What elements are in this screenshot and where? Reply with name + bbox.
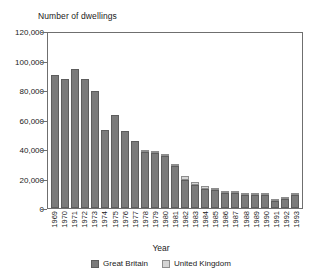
bar-column[interactable]	[91, 33, 100, 208]
x-axis-tick-label: 1975	[110, 210, 119, 244]
x-axis-tick-label: 1980	[160, 210, 169, 244]
bar-column[interactable]	[291, 33, 300, 208]
legend-item-great-britain: Great Britain	[91, 259, 148, 268]
bar-column[interactable]	[161, 33, 170, 208]
bar-column[interactable]	[81, 33, 90, 208]
legend-label-united-kingdom: United Kingdom	[174, 259, 231, 268]
x-axis-tick-label: 1974	[100, 210, 109, 244]
bar-column[interactable]	[241, 33, 250, 208]
x-axis-tick-label: 1992	[281, 210, 290, 244]
bar-column[interactable]	[101, 33, 110, 208]
bar-column[interactable]	[131, 33, 140, 208]
x-axis-tick-label: 1991	[271, 210, 280, 244]
bar-column[interactable]	[111, 33, 120, 208]
x-axis-tick-label: 1983	[191, 210, 200, 244]
bar-column[interactable]	[211, 33, 220, 208]
bar-segment-great-britain[interactable]	[281, 199, 290, 208]
x-axis-tick-label: 1978	[140, 210, 149, 244]
bar-segment-great-britain[interactable]	[191, 185, 200, 208]
bar-segment-great-britain[interactable]	[211, 190, 220, 208]
bar-segment-great-britain[interactable]	[131, 141, 140, 208]
bar-column[interactable]	[251, 33, 260, 208]
bar-column[interactable]	[151, 33, 160, 208]
bar-segment-great-britain[interactable]	[241, 195, 250, 208]
x-axis-tick-label: 1981	[171, 210, 180, 244]
x-axis-tick-label: 1990	[261, 210, 270, 244]
x-axis-tick-label: 1982	[181, 210, 190, 244]
y-axis-title: Number of dwellings	[38, 11, 117, 21]
bar-segment-great-britain[interactable]	[61, 79, 70, 208]
bar-column[interactable]	[191, 33, 200, 208]
bar-segment-great-britain[interactable]	[271, 201, 280, 208]
bar-segment-great-britain[interactable]	[141, 152, 150, 208]
bar-column[interactable]	[71, 33, 80, 208]
bar-column[interactable]	[201, 33, 210, 208]
bar-column[interactable]	[51, 33, 60, 208]
bar-segment-great-britain[interactable]	[111, 115, 120, 208]
x-axis-tick-label: 1989	[251, 210, 260, 244]
bar-segment-great-britain[interactable]	[291, 195, 300, 208]
bar-column[interactable]	[271, 33, 280, 208]
bar-column[interactable]	[181, 33, 190, 208]
bar-segment-great-britain[interactable]	[261, 195, 270, 208]
x-axis-tick-label: 1973	[90, 210, 99, 244]
legend-label-great-britain: Great Britain	[103, 259, 148, 268]
bar-column[interactable]	[221, 33, 230, 208]
x-axis-tick-label: 1988	[241, 210, 250, 244]
y-axis-tick-label: 20,000	[4, 175, 44, 184]
bar-series-group	[48, 33, 302, 208]
x-axis-tick-label: 1977	[130, 210, 139, 244]
x-axis-tick-label: 1970	[60, 210, 69, 244]
x-axis-tick-label: 1986	[221, 210, 230, 244]
bar-segment-great-britain[interactable]	[151, 153, 160, 208]
x-axis-tick-label: 1987	[231, 210, 240, 244]
plot-area	[47, 32, 303, 209]
x-axis-tick-label: 1972	[80, 210, 89, 244]
x-axis-tick-labels: 1969197019711972197319741975197619771978…	[47, 210, 303, 244]
bar-segment-great-britain[interactable]	[71, 69, 80, 208]
bar-segment-great-britain[interactable]	[161, 156, 170, 208]
bar-segment-great-britain[interactable]	[201, 189, 210, 208]
bar-segment-great-britain[interactable]	[51, 75, 60, 208]
bar-segment-great-britain[interactable]	[231, 193, 240, 208]
legend-swatch-icon-united-kingdom	[162, 260, 170, 268]
legend-item-united-kingdom: United Kingdom	[162, 259, 231, 268]
y-axis-tick-label: 0	[4, 205, 44, 214]
bar-segment-great-britain[interactable]	[181, 180, 190, 208]
bar-column[interactable]	[61, 33, 70, 208]
chart-container: Number of dwellings 020,00040,00060,0008…	[0, 0, 322, 280]
x-axis-tick-label: 1984	[201, 210, 210, 244]
bar-segment-great-britain[interactable]	[91, 91, 100, 208]
x-axis-tick-label: 1969	[50, 210, 59, 244]
y-axis-tick-label: 100,000	[4, 57, 44, 66]
bar-segment-great-britain[interactable]	[81, 79, 90, 208]
x-axis-title: Year	[0, 243, 322, 253]
x-axis-tick-label: 1976	[120, 210, 129, 244]
bar-column[interactable]	[231, 33, 240, 208]
bar-segment-great-britain[interactable]	[221, 193, 230, 208]
bar-column[interactable]	[121, 33, 130, 208]
x-axis-tick-label: 1985	[211, 210, 220, 244]
y-axis-tick-label: 40,000	[4, 146, 44, 155]
bar-column[interactable]	[261, 33, 270, 208]
y-axis-tick-label: 80,000	[4, 87, 44, 96]
x-axis-tick-label: 1971	[70, 210, 79, 244]
bar-segment-great-britain[interactable]	[101, 130, 110, 208]
bar-segment-great-britain[interactable]	[251, 195, 260, 208]
legend-swatch-icon-great-britain	[91, 260, 99, 268]
x-axis-tick-label: 1993	[291, 210, 300, 244]
bar-column[interactable]	[141, 33, 150, 208]
bar-segment-great-britain[interactable]	[171, 166, 180, 208]
bar-column[interactable]	[171, 33, 180, 208]
y-axis-tick-label: 120,000	[4, 28, 44, 37]
chart-legend: Great Britain United Kingdom	[0, 259, 322, 268]
x-axis-tick-label: 1979	[150, 210, 159, 244]
y-axis-tick-label: 60,000	[4, 116, 44, 125]
bar-column[interactable]	[281, 33, 290, 208]
bar-segment-great-britain[interactable]	[121, 131, 130, 208]
